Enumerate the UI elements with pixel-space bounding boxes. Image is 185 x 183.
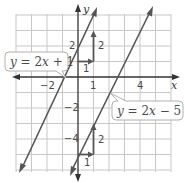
callout-line2: y = 2x − 5 (110, 93, 183, 120)
y-tick-2: 2 (69, 40, 75, 51)
x-tick-neg2: −2 (40, 80, 55, 91)
line-y-2x-plus-1 (19, 7, 97, 173)
line2-run-label: 1 (84, 157, 90, 168)
line1-bottom-arrow-icon (19, 163, 26, 173)
slope-triangle-line1 (78, 31, 97, 65)
coordinate-graph: y x −2 1 4 2 −2 −4 1 2 1 2 y = 2x + 1 (0, 0, 185, 183)
x-tick-1: 1 (90, 80, 96, 91)
line-y-2x-minus-5 (70, 6, 153, 176)
y-tick-neg4: −4 (64, 133, 79, 144)
callout-line2-label: y = 2x − 5 (116, 104, 181, 118)
x-tick-4: 4 (137, 80, 143, 91)
rise-arrow-icon (91, 31, 97, 38)
callout-line1: y = 2x + 1 (5, 52, 74, 78)
line2-rise-label: 2 (98, 134, 104, 145)
y-tick-neg2: −2 (64, 102, 79, 113)
line1-run-label: 1 (83, 63, 89, 74)
y-axis-down-arrow-icon (75, 174, 81, 182)
callout-line1-label: y = 2x + 1 (9, 55, 74, 69)
line1-rise-label: 2 (98, 40, 104, 51)
x-axis-label: x (171, 79, 178, 92)
rise-arrow-icon (91, 124, 97, 131)
y-axis-up-arrow-icon (75, 4, 81, 12)
y-axis-label: y (82, 3, 90, 16)
